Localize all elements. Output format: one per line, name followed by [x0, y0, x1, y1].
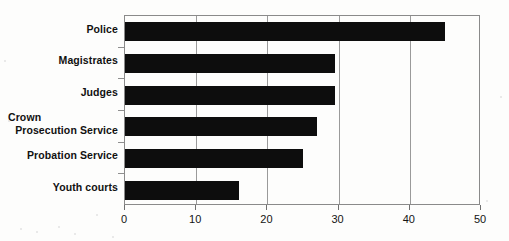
scan-speck — [112, 236, 114, 238]
gridline — [196, 16, 197, 204]
bar — [125, 54, 335, 73]
category-label: CrownProsecution Service — [0, 111, 118, 136]
gridline — [267, 16, 268, 204]
category-label-line: Crown — [0, 111, 118, 124]
scan-speck — [20, 228, 22, 230]
scan-speck — [4, 60, 6, 62]
category-label: Police — [0, 23, 118, 36]
category-label-line: Judges — [0, 86, 118, 99]
bar — [125, 149, 303, 168]
category-label-line: Magistrates — [0, 54, 118, 67]
x-axis-tick-label: 10 — [175, 213, 215, 225]
category-label-line: Probation Service — [0, 149, 118, 162]
category-label: Probation Service — [0, 149, 118, 162]
category-label-line: Prosecution Service — [0, 124, 118, 137]
x-axis-tick-label: 30 — [318, 213, 358, 225]
x-axis-tick-label: 40 — [389, 213, 429, 225]
scan-speck — [74, 233, 76, 235]
y-axis-tick — [118, 110, 124, 111]
bar — [125, 117, 317, 136]
x-axis-tick-label: 0 — [104, 213, 144, 225]
chart-page: PoliceMagistratesJudgesCrownProsecution … — [0, 0, 509, 241]
x-axis-tick — [409, 205, 410, 210]
y-axis-tick — [118, 173, 124, 174]
category-label: Youth courts — [0, 181, 118, 194]
gridline — [410, 16, 411, 204]
category-label-column: PoliceMagistratesJudgesCrownProsecution … — [0, 14, 118, 206]
bar — [125, 22, 445, 41]
x-axis-tick — [195, 205, 196, 210]
scan-speck — [96, 214, 98, 216]
scan-speck — [500, 96, 502, 98]
x-axis-tick — [266, 205, 267, 210]
x-axis-tick-label: 50 — [460, 213, 500, 225]
scan-speck — [36, 231, 38, 233]
y-axis-tick — [118, 78, 124, 79]
bar — [125, 181, 239, 200]
x-axis-tick — [480, 205, 481, 210]
bar — [125, 86, 335, 105]
y-axis-tick — [118, 47, 124, 48]
category-label: Judges — [0, 86, 118, 99]
x-axis-tick-label: 20 — [246, 213, 286, 225]
x-axis-tick — [124, 205, 125, 210]
scan-speck — [486, 200, 488, 202]
scan-speck — [58, 226, 60, 228]
scan-speck — [8, 120, 10, 122]
category-label-line: Police — [0, 23, 118, 36]
category-label-line: Youth courts — [0, 181, 118, 194]
category-label: Magistrates — [0, 54, 118, 67]
gridline — [339, 16, 340, 204]
x-axis-tick — [338, 205, 339, 210]
y-axis-tick — [118, 142, 124, 143]
plot-area — [124, 15, 480, 205]
